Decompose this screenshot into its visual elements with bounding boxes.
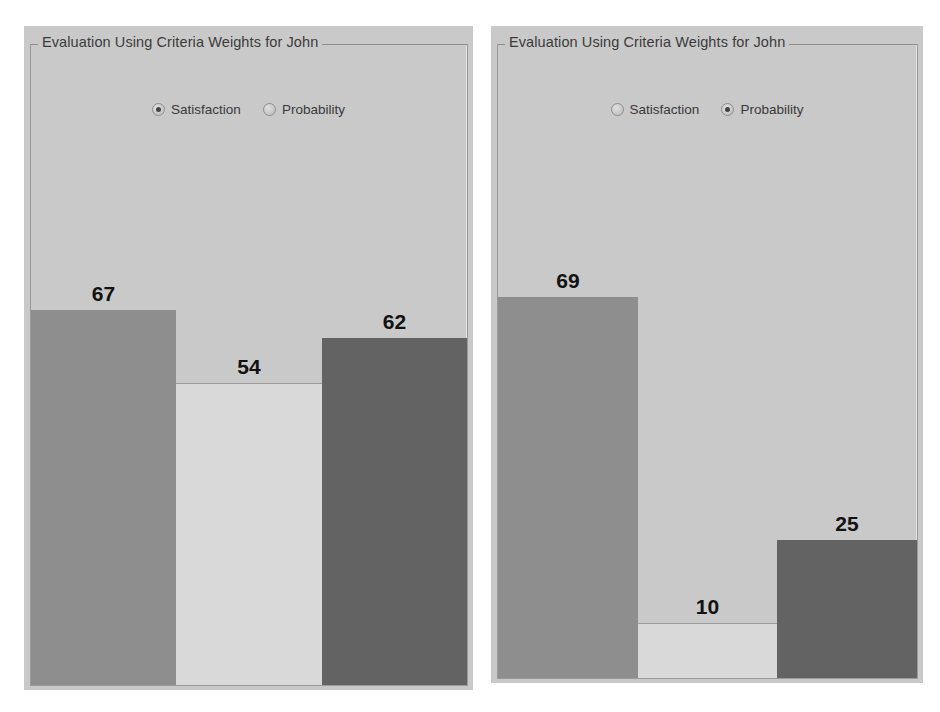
bar-chart: 675462 — [31, 126, 467, 685]
bar-3 — [322, 338, 467, 685]
radio-option-probability[interactable]: Probability — [263, 102, 345, 117]
radio-option-satisfaction[interactable]: Satisfaction — [152, 102, 241, 117]
criteria-radio-group: Satisfaction Probability — [491, 102, 923, 117]
bar-1 — [31, 310, 176, 685]
evaluation-panel-satisfaction: Evaluation Using Criteria Weights for Jo… — [24, 26, 473, 690]
radio-unselected-icon[interactable] — [611, 103, 624, 116]
bar-1 — [498, 297, 638, 678]
panel-title: Evaluation Using Criteria Weights for Jo… — [38, 34, 322, 50]
bar-value-label-3: 25 — [835, 512, 858, 536]
evaluation-panel-probability: Evaluation Using Criteria Weights for Jo… — [491, 26, 923, 683]
radio-option-probability[interactable]: Probability — [721, 102, 803, 117]
bar-value-label-2: 10 — [696, 595, 719, 619]
bar-2 — [176, 383, 322, 685]
radio-label-probability: Probability — [740, 102, 803, 117]
radio-label-satisfaction: Satisfaction — [630, 102, 700, 117]
bar-value-label-2: 54 — [237, 355, 260, 379]
panel-title: Evaluation Using Criteria Weights for Jo… — [505, 34, 789, 50]
bar-3 — [777, 540, 917, 678]
radio-selected-icon[interactable] — [721, 103, 734, 116]
bar-2 — [638, 623, 777, 678]
radio-option-satisfaction[interactable]: Satisfaction — [611, 102, 700, 117]
radio-selected-icon[interactable] — [152, 103, 165, 116]
criteria-radio-group: Satisfaction Probability — [24, 102, 473, 117]
radio-unselected-icon[interactable] — [263, 103, 276, 116]
bar-chart: 691025 — [498, 126, 917, 678]
bar-value-label-3: 62 — [383, 310, 406, 334]
bar-value-label-1: 69 — [556, 269, 579, 293]
bar-value-label-1: 67 — [92, 282, 115, 306]
app-root: Evaluation Using Criteria Weights for Jo… — [0, 0, 940, 712]
radio-label-satisfaction: Satisfaction — [171, 102, 241, 117]
radio-label-probability: Probability — [282, 102, 345, 117]
